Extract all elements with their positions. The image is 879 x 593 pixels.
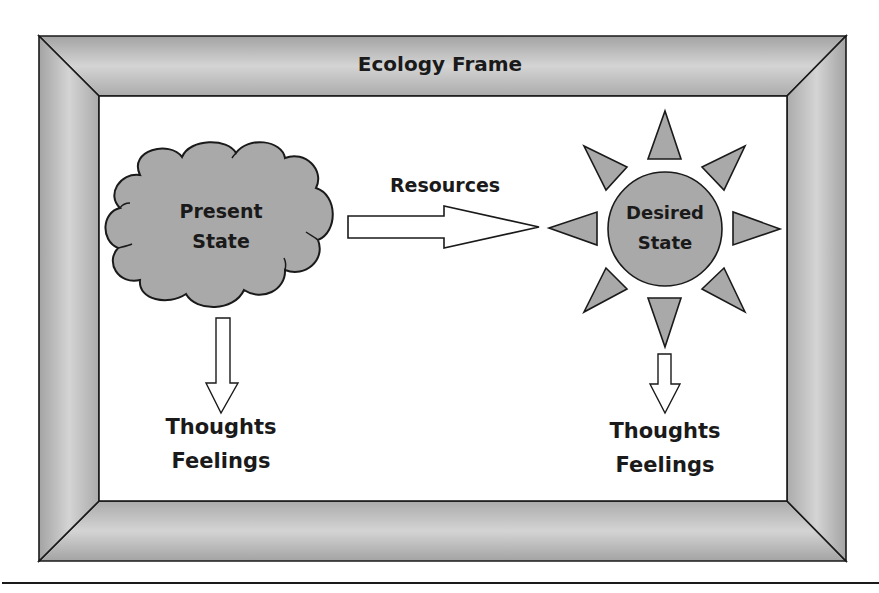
- desired-state-line2: State: [605, 228, 725, 258]
- desired-outcomes-label: Thoughts Feelings: [585, 414, 745, 482]
- frame-right: [787, 36, 846, 561]
- present-state-label: Present State: [161, 196, 281, 256]
- desired-feelings: Feelings: [585, 448, 745, 482]
- present-state-line1: Present: [161, 196, 281, 226]
- frame-left: [39, 36, 99, 561]
- present-thoughts: Thoughts: [141, 410, 301, 444]
- desired-state-label: Desired State: [605, 198, 725, 258]
- diagram-title: Ecology Frame: [340, 50, 540, 78]
- present-outcomes-label: Thoughts Feelings: [141, 410, 301, 478]
- desired-state-line1: Desired: [605, 198, 725, 228]
- frame-bottom: [39, 501, 846, 561]
- resources-label: Resources: [370, 172, 520, 198]
- desired-thoughts: Thoughts: [585, 414, 745, 448]
- present-feelings: Feelings: [141, 444, 301, 478]
- present-state-line2: State: [161, 226, 281, 256]
- ecology-frame-diagram: [0, 0, 879, 593]
